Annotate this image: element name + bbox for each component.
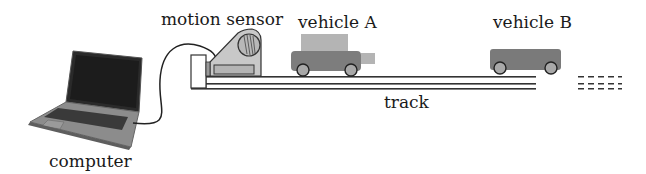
laptop-icon [28, 51, 142, 150]
vehicle-a-label: vehicle A [298, 14, 377, 31]
vehicle-b-cart-icon [490, 49, 561, 74]
track-label: track [384, 94, 429, 111]
track-icon [191, 76, 622, 90]
vehicle-a-car-icon [291, 34, 375, 76]
vehicle-b-label: vehicle B [493, 14, 572, 31]
motion-sensor-label: motion sensor [161, 11, 283, 28]
diagram-canvas: motion sensor vehicle A vehicle B track … [0, 0, 646, 174]
computer-label: computer [49, 153, 132, 170]
motion-sensor-icon [191, 29, 261, 88]
